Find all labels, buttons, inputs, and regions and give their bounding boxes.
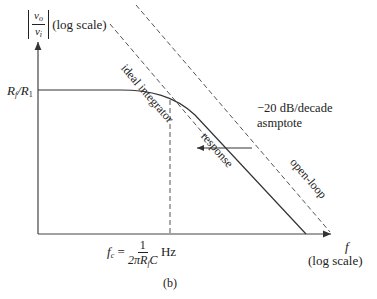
y-axis-label: vo vi (log scale) [28, 10, 107, 39]
r1-r: /R [17, 83, 29, 98]
fc-numerator: 1 [138, 239, 148, 253]
vo-sub: o [39, 14, 43, 23]
fc-fraction: 1 2πRfC [128, 239, 158, 268]
gain-fraction: vo vi [32, 10, 45, 39]
vi-sub: i [40, 30, 42, 39]
gain-level-label: Rf/R1 [7, 84, 33, 99]
f-label: f [316, 240, 363, 254]
ideal-integrator-asymptote [110, 24, 207, 138]
hz-unit: Hz [161, 244, 176, 259]
r1-sub: 1 [29, 90, 33, 99]
two-pi-r: 2πR [128, 253, 147, 267]
corner-frequency-formula: fc = 1 2πRfC Hz [107, 239, 176, 268]
y-scale-note: (log scale) [52, 17, 107, 32]
cap-c: C [150, 253, 158, 267]
equals-sign: = [117, 244, 124, 259]
rf-r: R [7, 83, 15, 98]
x-axis-label: f (log scale) [316, 240, 363, 268]
asymptote-text: asmptote [257, 116, 332, 131]
magnitude-bars: vo vi [28, 10, 49, 39]
x-scale-note: (log scale) [308, 254, 363, 268]
fc-sub: c [111, 251, 115, 260]
slope-text: −20 dB/decade [257, 101, 332, 116]
fc-denominator: 2πRfC [128, 253, 158, 268]
slope-annotation: −20 dB/decade asmptote [257, 101, 332, 131]
figure-caption: (b) [163, 277, 177, 289]
